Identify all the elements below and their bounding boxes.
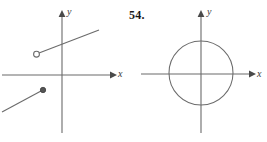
left-x-axis-label: x (118, 68, 122, 79)
exercise-number-label: 54. (129, 8, 145, 23)
left-lower-ray (2, 91, 41, 112)
left-y-axis-arrowhead (59, 10, 66, 17)
math-figure-panel: 54. x y x y (0, 0, 267, 142)
right-x-axis-label: x (257, 68, 261, 79)
right-y-axis-arrowhead (198, 10, 205, 17)
left-graph-group (2, 10, 117, 133)
left-x-axis-arrowhead (110, 72, 117, 79)
open-circle-endpoint (34, 51, 40, 57)
right-y-axis-label: y (207, 6, 211, 17)
left-upper-ray (39, 30, 99, 53)
right-graph-group (141, 10, 256, 133)
filled-circle-endpoint (40, 87, 45, 92)
right-x-axis-arrowhead (249, 71, 256, 78)
left-y-axis-label: y (67, 6, 71, 17)
